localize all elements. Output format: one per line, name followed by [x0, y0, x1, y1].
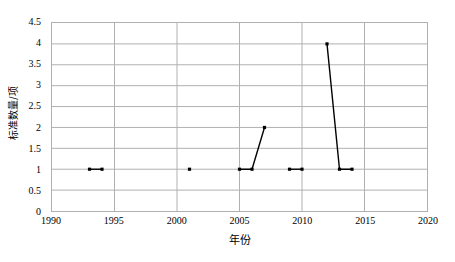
y-tick-label: 4 — [36, 38, 46, 48]
data-point-marker — [188, 168, 191, 171]
data-point-marker — [100, 168, 103, 171]
y-axis-tick-labels: 00.511.522.533.544.5 — [0, 22, 46, 212]
y-tick-label: 4.5 — [29, 17, 47, 27]
y-tick-label: 3.5 — [29, 59, 47, 69]
data-point-marker — [250, 168, 253, 171]
data-series — [52, 23, 427, 211]
y-tick-label: 1 — [36, 165, 46, 175]
segment-2012-2014 — [327, 44, 352, 169]
y-tick-label: 2 — [36, 123, 46, 133]
plot-area — [51, 22, 428, 212]
x-axis-tick-labels: 1990199520002005201020152020 — [51, 216, 428, 230]
y-tick-label: 2.5 — [29, 101, 47, 111]
data-point-marker — [288, 168, 291, 171]
segment-2005-2007 — [240, 127, 265, 169]
data-point-marker — [263, 126, 266, 129]
x-tick-label: 2010 — [292, 216, 312, 226]
x-tick-label: 1995 — [104, 216, 124, 226]
x-tick-label: 2020 — [418, 216, 438, 226]
data-point-marker — [88, 168, 91, 171]
y-tick-label: 3 — [36, 80, 46, 90]
data-point-marker — [300, 168, 303, 171]
data-point-marker — [238, 168, 241, 171]
x-tick-label: 2000 — [167, 216, 187, 226]
y-tick-label: 0.5 — [29, 186, 47, 196]
data-point-marker — [325, 42, 328, 45]
x-axis-title: 年份 — [51, 234, 428, 247]
y-axis-title: 标准数量/项 — [8, 63, 20, 163]
y-tick-label: 1.5 — [29, 144, 47, 154]
chart-container: 00.511.522.533.544.5 1990199520002005201… — [0, 0, 455, 262]
x-tick-label: 1990 — [41, 216, 61, 226]
data-point-marker — [338, 168, 341, 171]
data-point-marker — [350, 168, 353, 171]
x-tick-label: 2015 — [355, 216, 375, 226]
x-tick-label: 2005 — [230, 216, 250, 226]
